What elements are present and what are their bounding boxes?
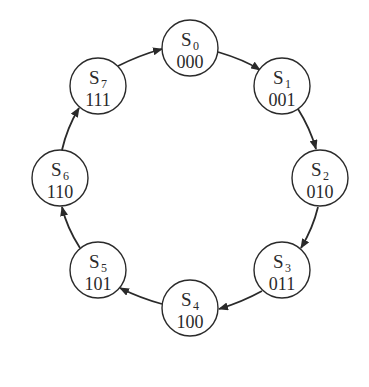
state-code: 100 xyxy=(177,312,204,332)
state-name: S xyxy=(89,67,100,88)
state-code: 010 xyxy=(307,182,334,202)
transition-s5-s6 xyxy=(62,207,80,248)
state-diagram: S 0 000 S 1 001 S 2 010 S 3 011 S 4 100 … xyxy=(0,0,369,387)
state-s0: S 0 000 xyxy=(162,20,218,76)
state-code: 000 xyxy=(177,52,204,72)
state-name: S xyxy=(51,159,62,180)
transition-s7-s0 xyxy=(118,49,162,66)
state-name: S xyxy=(181,29,192,50)
state-index: 1 xyxy=(285,77,291,91)
state-s4: S 4 100 xyxy=(162,280,218,336)
state-index: 6 xyxy=(63,169,69,183)
transition-s3-s4 xyxy=(219,291,262,309)
state-s6: S 6 110 xyxy=(32,150,88,206)
state-code: 111 xyxy=(85,90,111,110)
state-code: 101 xyxy=(85,274,112,294)
state-s7: S 7 111 xyxy=(70,58,126,114)
transition-s0-s1 xyxy=(218,52,260,70)
state-name: S xyxy=(273,251,284,272)
state-name: S xyxy=(273,67,284,88)
state-name: S xyxy=(311,159,322,180)
state-code: 011 xyxy=(269,274,295,294)
transition-s2-s3 xyxy=(301,207,318,248)
state-index: 4 xyxy=(193,299,199,313)
state-s3: S 3 011 xyxy=(254,242,310,298)
transition-s4-s5 xyxy=(120,288,162,304)
state-index: 5 xyxy=(101,261,107,275)
transition-s6-s7 xyxy=(62,108,79,150)
state-code: 110 xyxy=(47,182,73,202)
state-s2: S 2 010 xyxy=(292,150,348,206)
state-index: 3 xyxy=(285,261,291,275)
state-index: 7 xyxy=(101,77,107,91)
state-index: 2 xyxy=(323,169,329,183)
state-s5: S 5 101 xyxy=(70,242,126,298)
state-code: 001 xyxy=(269,90,296,110)
state-name: S xyxy=(181,289,192,310)
state-name: S xyxy=(89,251,100,272)
state-index: 0 xyxy=(193,39,199,53)
transition-s1-s2 xyxy=(298,109,316,149)
state-s1: S 1 001 xyxy=(254,58,310,114)
